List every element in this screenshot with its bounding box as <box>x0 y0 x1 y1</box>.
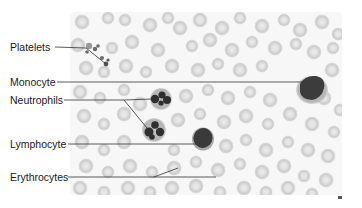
label-monocyte: Monocyte <box>10 76 56 88</box>
monocyte-cell <box>296 76 328 104</box>
label-platelets: Platelets <box>10 41 50 53</box>
credit-mark <box>338 196 342 199</box>
label-neutrophils: Neutrophils <box>10 94 63 106</box>
smear-field <box>70 12 346 200</box>
neutrophil-cell-2 <box>142 118 166 142</box>
neutrophil-cell-1 <box>150 88 172 110</box>
label-lymphocyte: Lymphocyte <box>10 138 66 150</box>
label-erythrocytes: Erythrocytes <box>10 171 68 183</box>
